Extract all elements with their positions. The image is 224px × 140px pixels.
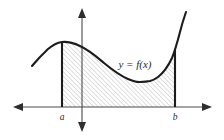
function-label: y = f(x) (117, 58, 151, 71)
x-axis-left-arrow-icon (13, 103, 23, 111)
integral-diagram-svg: y = f(x) a b (0, 0, 224, 140)
lower-bound-label: a (60, 112, 65, 122)
figure-canvas: y = f(x) a b (0, 0, 224, 140)
y-axis-bottom-arrow-icon (78, 122, 86, 132)
x-axis-right-arrow-icon (202, 103, 212, 111)
upper-bound-label: b (173, 112, 178, 122)
y-axis-top-arrow-icon (78, 8, 86, 18)
